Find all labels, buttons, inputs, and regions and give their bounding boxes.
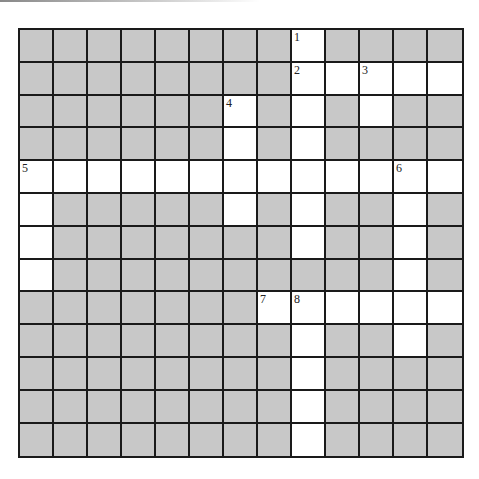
crossword-block bbox=[258, 128, 292, 161]
crossword-block bbox=[190, 227, 224, 260]
crossword-block bbox=[20, 424, 54, 457]
crossword-cell[interactable] bbox=[394, 63, 428, 96]
crossword-cell[interactable]: 4 bbox=[224, 96, 258, 129]
crossword-block bbox=[122, 30, 156, 63]
crossword-cell[interactable] bbox=[224, 194, 258, 227]
crossword-block bbox=[224, 424, 258, 457]
crossword-block bbox=[54, 128, 88, 161]
crossword-block bbox=[54, 325, 88, 358]
crossword-cell[interactable] bbox=[360, 96, 394, 129]
crossword-block bbox=[122, 227, 156, 260]
crossword-cell[interactable] bbox=[292, 161, 326, 194]
crossword-cell[interactable] bbox=[394, 227, 428, 260]
crossword-cell[interactable] bbox=[20, 194, 54, 227]
crossword-cell[interactable]: 1 bbox=[292, 30, 326, 63]
crossword-cell[interactable]: 2 bbox=[292, 63, 326, 96]
crossword-cell[interactable] bbox=[292, 325, 326, 358]
crossword-block bbox=[88, 325, 122, 358]
crossword-block bbox=[326, 96, 360, 129]
crossword-cell[interactable] bbox=[292, 391, 326, 424]
crossword-cell[interactable] bbox=[394, 260, 428, 293]
crossword-cell[interactable] bbox=[292, 96, 326, 129]
crossword-block bbox=[394, 96, 428, 129]
crossword-block bbox=[88, 391, 122, 424]
crossword-block bbox=[156, 292, 190, 325]
crossword-block bbox=[428, 358, 462, 391]
crossword-cell[interactable] bbox=[20, 260, 54, 293]
crossword-cell[interactable]: 3 bbox=[360, 63, 394, 96]
crossword-cell[interactable] bbox=[258, 161, 292, 194]
crossword-block bbox=[122, 128, 156, 161]
crossword-block bbox=[360, 424, 394, 457]
crossword-block bbox=[190, 292, 224, 325]
crossword-cell[interactable] bbox=[292, 227, 326, 260]
crossword-block bbox=[224, 227, 258, 260]
crossword-cell[interactable] bbox=[54, 161, 88, 194]
crossword-block bbox=[224, 63, 258, 96]
crossword-block bbox=[54, 63, 88, 96]
crossword-cell[interactable] bbox=[292, 194, 326, 227]
crossword-cell[interactable] bbox=[20, 227, 54, 260]
crossword-block bbox=[156, 358, 190, 391]
crossword-cell[interactable] bbox=[292, 128, 326, 161]
crossword-block bbox=[428, 391, 462, 424]
crossword-block bbox=[122, 391, 156, 424]
crossword-block bbox=[122, 424, 156, 457]
clue-number: 7 bbox=[260, 292, 266, 306]
crossword-block bbox=[224, 292, 258, 325]
crossword-block bbox=[394, 358, 428, 391]
crossword-block bbox=[428, 96, 462, 129]
crossword-cell[interactable] bbox=[224, 161, 258, 194]
crossword-block bbox=[20, 63, 54, 96]
crossword-block bbox=[20, 128, 54, 161]
crossword-block bbox=[156, 424, 190, 457]
crossword-cell[interactable] bbox=[156, 161, 190, 194]
crossword-block bbox=[190, 128, 224, 161]
crossword-cell[interactable] bbox=[394, 292, 428, 325]
crossword-block bbox=[156, 391, 190, 424]
crossword-cell[interactable] bbox=[88, 161, 122, 194]
crossword-block bbox=[360, 128, 394, 161]
crossword-block bbox=[54, 424, 88, 457]
crossword-cell[interactable] bbox=[292, 424, 326, 457]
crossword-cell[interactable] bbox=[428, 63, 462, 96]
clue-number: 6 bbox=[396, 161, 402, 175]
crossword-cell[interactable]: 8 bbox=[292, 292, 326, 325]
crossword-block bbox=[360, 325, 394, 358]
crossword-cell[interactable]: 7 bbox=[258, 292, 292, 325]
crossword-cell[interactable] bbox=[360, 161, 394, 194]
crossword-cell[interactable] bbox=[394, 325, 428, 358]
crossword-block bbox=[428, 227, 462, 260]
crossword-block bbox=[394, 30, 428, 63]
crossword-block bbox=[122, 260, 156, 293]
crossword-cell[interactable] bbox=[428, 292, 462, 325]
crossword-block bbox=[20, 325, 54, 358]
crossword-block bbox=[224, 260, 258, 293]
crossword-block bbox=[394, 424, 428, 457]
crossword-cell[interactable] bbox=[360, 292, 394, 325]
crossword-block bbox=[122, 358, 156, 391]
crossword-cell[interactable] bbox=[326, 63, 360, 96]
crossword-cell[interactable] bbox=[292, 358, 326, 391]
crossword-block bbox=[190, 63, 224, 96]
crossword-block bbox=[326, 194, 360, 227]
crossword-block bbox=[20, 292, 54, 325]
crossword-block bbox=[258, 424, 292, 457]
crossword-cell[interactable] bbox=[428, 161, 462, 194]
crossword-cell[interactable]: 5 bbox=[20, 161, 54, 194]
crossword-cell[interactable] bbox=[394, 194, 428, 227]
crossword-block bbox=[326, 391, 360, 424]
crossword-block bbox=[54, 260, 88, 293]
crossword-cell[interactable] bbox=[190, 161, 224, 194]
crossword-block bbox=[326, 424, 360, 457]
crossword-block bbox=[428, 424, 462, 457]
crossword-cell[interactable] bbox=[326, 292, 360, 325]
crossword-cell[interactable] bbox=[224, 128, 258, 161]
crossword-block bbox=[156, 30, 190, 63]
crossword-block bbox=[88, 96, 122, 129]
crossword-cell[interactable]: 6 bbox=[394, 161, 428, 194]
crossword-cell[interactable] bbox=[326, 161, 360, 194]
crossword-block bbox=[190, 424, 224, 457]
crossword-block bbox=[258, 96, 292, 129]
crossword-cell[interactable] bbox=[122, 161, 156, 194]
